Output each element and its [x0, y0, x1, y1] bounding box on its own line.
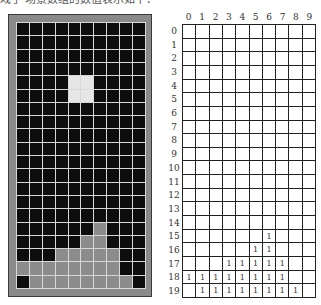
empty-cell: [81, 196, 93, 208]
table-cell: [263, 25, 276, 39]
empty-cell: [107, 183, 119, 195]
empty-cell: [120, 50, 132, 62]
table-cell: [250, 66, 263, 80]
table-cell: [223, 243, 236, 257]
table-cell: [236, 66, 249, 80]
table-cell: [210, 93, 223, 107]
row-header: 13: [166, 202, 182, 216]
table-cell: [196, 243, 209, 257]
filled-block-cell: [69, 276, 81, 288]
filled-block-cell: [56, 276, 68, 288]
table-cell: [183, 80, 196, 94]
table-cell: [250, 189, 263, 203]
table-cell: [289, 271, 302, 285]
empty-cell: [69, 63, 81, 75]
empty-cell: [94, 76, 106, 88]
empty-cell: [120, 23, 132, 35]
empty-cell: [107, 63, 119, 75]
empty-cell: [17, 50, 29, 62]
empty-cell: [133, 196, 145, 208]
empty-cell: [30, 196, 42, 208]
empty-cell: [30, 76, 42, 88]
row-header: 6: [166, 106, 182, 120]
table-cell: [276, 189, 289, 203]
table-cell: [210, 134, 223, 148]
empty-cell: [30, 209, 42, 221]
empty-cell: [43, 76, 55, 88]
table-cell: [276, 66, 289, 80]
table-cell: [236, 52, 249, 66]
empty-cell: [107, 116, 119, 128]
table-cell: 1: [223, 271, 236, 285]
table-cell: [303, 52, 316, 66]
empty-cell: [133, 103, 145, 115]
table-cell: [236, 93, 249, 107]
empty-cell: [56, 116, 68, 128]
empty-cell: [69, 23, 81, 35]
filled-block-cell: [94, 262, 106, 274]
table-cell: [289, 216, 302, 230]
empty-cell: [81, 103, 93, 115]
empty-cell: [43, 209, 55, 221]
table-cell: [183, 175, 196, 189]
table-cell: [196, 161, 209, 175]
table-cell: 1: [263, 284, 276, 298]
empty-cell: [43, 103, 55, 115]
filled-block-cell: [107, 262, 119, 274]
column-header: 1: [195, 11, 208, 23]
empty-cell: [17, 276, 29, 288]
row-header: 0: [166, 24, 182, 38]
empty-cell: [81, 209, 93, 221]
empty-cell: [30, 90, 42, 102]
filled-block-cell: [30, 262, 42, 274]
active-block-cell: [69, 90, 81, 102]
table-cell: [263, 161, 276, 175]
table-cell: [236, 148, 249, 162]
empty-cell: [133, 50, 145, 62]
empty-cell: [17, 236, 29, 248]
empty-cell: [120, 236, 132, 248]
table-cell: [210, 148, 223, 162]
filled-block-cell: [81, 276, 93, 288]
filled-block-cell: [107, 249, 119, 261]
table-cell: 1: [276, 257, 289, 271]
table-cell: [223, 93, 236, 107]
value-table: 111111111111111111111111: [182, 24, 316, 298]
empty-cell: [17, 169, 29, 181]
table-cell: [236, 216, 249, 230]
table-cell: [250, 216, 263, 230]
empty-cell: [56, 63, 68, 75]
filled-block-cell: [56, 249, 68, 261]
empty-cell: [17, 196, 29, 208]
empty-cell: [120, 209, 132, 221]
table-cell: [183, 52, 196, 66]
empty-cell: [94, 23, 106, 35]
empty-cell: [69, 236, 81, 248]
table-cell: [236, 39, 249, 53]
empty-cell: [43, 50, 55, 62]
table-cell: [303, 175, 316, 189]
empty-cell: [17, 183, 29, 195]
empty-cell: [43, 143, 55, 155]
empty-cell: [56, 143, 68, 155]
table-cell: [303, 134, 316, 148]
table-cell: [196, 148, 209, 162]
table-cell: [289, 175, 302, 189]
empty-cell: [43, 156, 55, 168]
empty-cell: [17, 76, 29, 88]
table-cell: [196, 134, 209, 148]
table-cell: 1: [276, 271, 289, 285]
empty-cell: [30, 143, 42, 155]
empty-cell: [81, 129, 93, 141]
empty-cell: [43, 183, 55, 195]
empty-cell: [56, 76, 68, 88]
table-cell: [210, 257, 223, 271]
table-cell: [236, 107, 249, 121]
table-cell: [303, 189, 316, 203]
table-cell: [183, 66, 196, 80]
table-cell: 1: [183, 271, 196, 285]
table-cell: [196, 175, 209, 189]
empty-cell: [30, 50, 42, 62]
table-cell: [276, 216, 289, 230]
filled-block-cell: [30, 276, 42, 288]
